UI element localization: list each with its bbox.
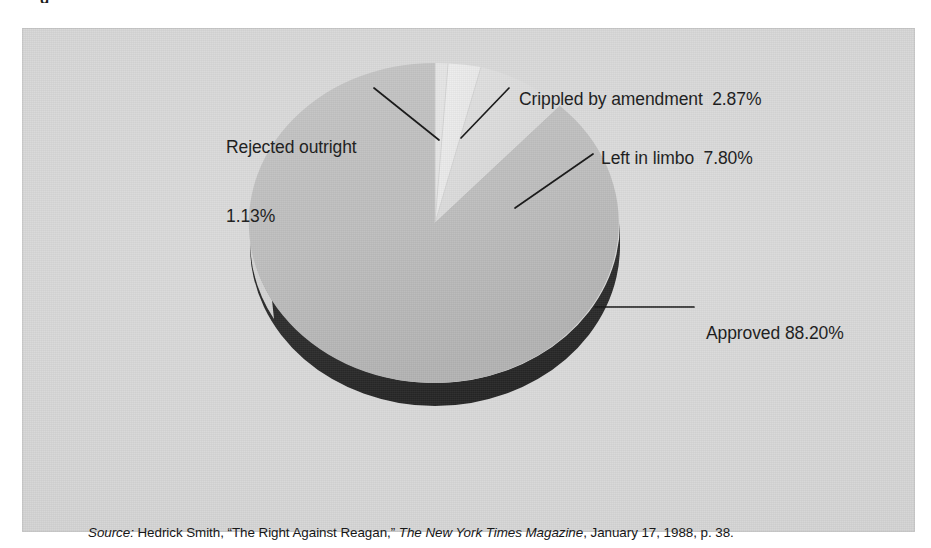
pie-label-crippled-by-amendment: Crippled by amendment 2.87% — [519, 88, 761, 111]
scan-remnant-text: g — [40, 0, 49, 3]
pie-label-left-in-limbo: Left in limbo 7.80% — [601, 147, 753, 170]
pie-label-rejected-outright: Rejected outright 1.13% — [226, 90, 357, 274]
source-caption: Source: Hedrick Smith, “The Right Agains… — [88, 525, 734, 540]
figure-panel: Rejected outright 1.13% Crippled by amen… — [22, 28, 915, 532]
source-author: Hedrick Smith, “The Right Against Reagan… — [134, 525, 399, 540]
pie-chart — [22, 28, 915, 532]
source-prefix: Source: — [88, 525, 134, 540]
source-publication: The New York Times Magazine — [399, 525, 583, 540]
pie-label-approved: Approved 88.20% — [706, 322, 844, 345]
pie-label-rejected-line2: 1.13% — [226, 205, 357, 228]
pie-label-rejected-line1: Rejected outright — [226, 136, 357, 159]
source-suffix: , January 17, 1988, p. 38. — [583, 525, 734, 540]
